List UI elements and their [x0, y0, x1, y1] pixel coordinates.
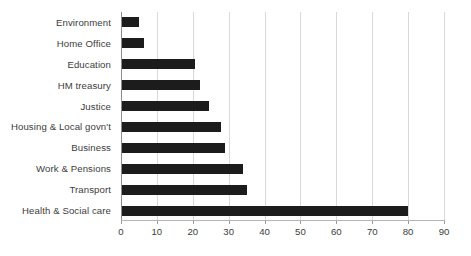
x-tick-mark	[408, 221, 409, 224]
bar	[121, 164, 243, 174]
category-label: Education	[67, 54, 111, 75]
gridline	[372, 12, 373, 221]
bar	[121, 101, 209, 111]
category-label: Work & Pensions	[36, 158, 111, 179]
bar-chart: EnvironmentHome OfficeEducationHM treasu…	[0, 0, 471, 256]
value-axis-line	[121, 12, 122, 221]
x-tick-label: 90	[429, 226, 459, 237]
category-axis-baseline	[121, 220, 445, 221]
gridline	[444, 12, 445, 221]
x-tick-label: 60	[321, 226, 351, 237]
x-tick-label: 50	[285, 226, 315, 237]
gridline	[408, 12, 409, 221]
category-label: Transport	[69, 179, 111, 200]
x-tick-mark	[193, 221, 194, 224]
x-tick-mark	[444, 221, 445, 224]
x-tick-mark	[265, 221, 266, 224]
x-tick-mark	[157, 221, 158, 224]
bar	[121, 80, 200, 90]
x-tick-mark	[336, 221, 337, 224]
x-tick-label: 70	[357, 226, 387, 237]
bar	[121, 59, 195, 69]
x-tick-label: 40	[250, 226, 280, 237]
category-label: Housing & Local govn't	[11, 116, 111, 137]
x-tick-label: 80	[393, 226, 423, 237]
category-label: Health & Social care	[22, 200, 111, 221]
x-tick-mark	[300, 221, 301, 224]
x-tick-mark	[229, 221, 230, 224]
x-tick-label: 20	[178, 226, 208, 237]
gridline	[300, 12, 301, 221]
category-label: Business	[71, 137, 111, 158]
x-tick-mark	[121, 221, 122, 224]
gridline	[265, 12, 266, 221]
x-tick-mark	[372, 221, 373, 224]
x-tick-label: 0	[106, 226, 136, 237]
category-label: HM treasury	[58, 75, 111, 96]
plot-area	[121, 12, 444, 221]
x-tick-label: 30	[214, 226, 244, 237]
bar	[121, 206, 408, 216]
bar	[121, 122, 221, 132]
category-axis-labels: EnvironmentHome OfficeEducationHM treasu…	[0, 12, 116, 221]
category-label: Home Office	[57, 33, 111, 54]
bar	[121, 143, 225, 153]
bar	[121, 185, 247, 195]
x-tick-label: 10	[142, 226, 172, 237]
category-label: Justice	[80, 96, 111, 117]
gridline	[336, 12, 337, 221]
bar	[121, 17, 139, 27]
bar	[121, 38, 144, 48]
category-label: Environment	[56, 12, 111, 33]
